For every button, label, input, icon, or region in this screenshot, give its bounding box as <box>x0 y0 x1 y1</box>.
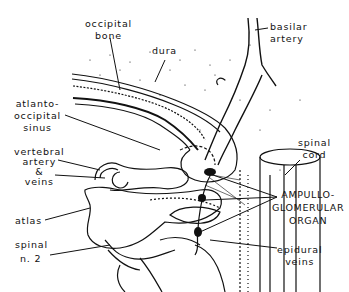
label-spinal-cord: spinal cord <box>298 137 331 161</box>
label-epidural-veins: epidural veins <box>277 244 322 268</box>
label-spinal-n2: spinal n. 2 <box>15 238 48 266</box>
label-dura: dura <box>152 45 177 57</box>
label-occipital-bone: occipital bone <box>85 18 132 42</box>
label-vertebral-artery-veins: vertebral artery & veins <box>14 147 65 187</box>
label-basilar-artery: basilar artery <box>270 21 307 45</box>
label-ampullo-glomerular-organ: AMPULLO- GLOMERULAR ORGAN <box>272 188 344 227</box>
label-atlanto-occipital-sinus: atlanto- occipital sinus <box>14 98 61 134</box>
label-atlas: atlas <box>15 215 42 227</box>
